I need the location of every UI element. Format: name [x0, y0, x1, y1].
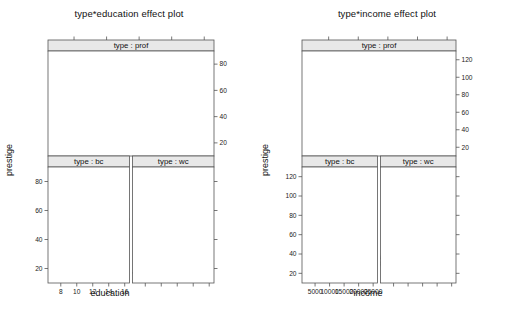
panel-border-bc — [48, 167, 130, 283]
panel-border-wc — [381, 167, 457, 283]
panel-border-prof — [302, 51, 456, 156]
education-plot-ylabel: prestige — [4, 135, 14, 185]
ytick-label: 80 — [462, 91, 470, 98]
ytick-label: 100 — [462, 74, 473, 81]
ytick-label: 40 — [289, 250, 297, 257]
panel-wc: type : wc — [379, 156, 459, 287]
ytick-label: 20 — [462, 144, 470, 151]
income-plot-canvas: type : prof20406080100120type : bc204060… — [258, 0, 516, 313]
ytick-label: 20 — [289, 270, 297, 277]
strip-label-wc: type : wc — [403, 157, 434, 166]
ytick-label: 60 — [220, 87, 228, 94]
ytick-label: 120 — [462, 56, 473, 63]
panel-border-wc — [133, 167, 215, 283]
panel-border-bc — [302, 167, 378, 283]
ytick-label: 40 — [35, 236, 43, 243]
education-plot-canvas: type : prof20406080type : bc204060808101… — [0, 0, 258, 313]
strip-label-wc: type : wc — [158, 157, 189, 166]
panel-prof: type : prof20406080100120 — [302, 37, 473, 157]
strip-label-prof: type : prof — [362, 41, 398, 50]
panel-prof: type : prof20406080 — [48, 37, 227, 157]
panel-bc: type : bc2040608010012050001000015000200… — [285, 156, 382, 295]
education-plot-xlabel: education — [40, 288, 180, 298]
panel-bc: type : bc20406080810121416 — [35, 156, 129, 295]
strip-label-bc: type : bc — [74, 157, 104, 166]
income-plot-xlabel: income — [298, 288, 438, 298]
ytick-label: 60 — [289, 231, 297, 238]
ytick-label: 20 — [220, 139, 228, 146]
ytick-label: 80 — [289, 212, 297, 219]
panel-wc: type : wc — [133, 156, 218, 293]
ytick-label: 40 — [220, 113, 228, 120]
ytick-label: 60 — [35, 207, 43, 214]
income-effect-plot: type*income effect plot prestige income … — [258, 0, 516, 313]
strip-label-prof: type : prof — [114, 41, 150, 50]
panel-border-prof — [48, 51, 214, 156]
education-effect-plot: type*education effect plot prestige educ… — [0, 0, 258, 313]
ytick-label: 120 — [285, 173, 296, 180]
ytick-label: 80 — [35, 178, 43, 185]
ytick-label: 20 — [35, 265, 43, 272]
education-plot-title: type*education effect plot — [0, 8, 258, 19]
income-plot-ylabel: prestige — [260, 135, 270, 185]
ytick-label: 80 — [220, 60, 228, 67]
ytick-label: 100 — [285, 192, 296, 199]
income-plot-title: type*income effect plot — [258, 8, 516, 19]
effect-plots-figure: type*education effect plot prestige educ… — [0, 0, 516, 313]
ytick-label: 40 — [462, 126, 470, 133]
strip-label-bc: type : bc — [325, 157, 355, 166]
ytick-label: 60 — [462, 109, 470, 116]
